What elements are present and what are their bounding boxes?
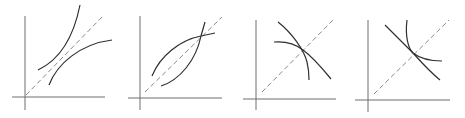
diagonal-45-line [374,20,449,94]
curve-1 [38,5,80,70]
panel-4 [355,20,450,112]
diagonal-45-line [145,17,222,92]
curve-1 [152,33,215,76]
figure [0,0,465,118]
panel-2 [128,16,222,110]
figure-canvas [0,0,465,118]
curve-2 [406,20,442,61]
diagonal-45-line [26,16,103,95]
curve-2 [274,42,331,79]
panel-3 [243,18,336,110]
panel-1 [12,5,112,110]
diagonal-45-line [262,18,335,92]
curve-2 [49,40,112,85]
